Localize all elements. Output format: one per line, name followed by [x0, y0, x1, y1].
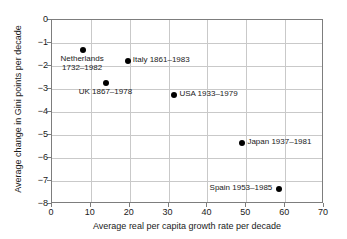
- y-tick-label: −5: [38, 129, 48, 139]
- scatter-chart-figure: 010203040506070 0−1−2−3−4−5−6−7−8 Nether…: [0, 0, 347, 239]
- gridline-vertical: [246, 20, 247, 202]
- x-tick-label: 60: [279, 207, 289, 217]
- data-point-marker: [171, 92, 177, 98]
- gridline-vertical: [169, 20, 170, 202]
- gridline-vertical: [130, 20, 131, 202]
- x-tick-label: 50: [240, 207, 250, 217]
- x-tick-label: 0: [48, 207, 53, 217]
- gridline-vertical: [285, 20, 286, 202]
- y-tick-label: −2: [38, 60, 48, 70]
- x-tick-label: 70: [318, 207, 328, 217]
- data-point-label: USA 1933–1979: [179, 89, 237, 99]
- data-point-label: Italy 1861–1983: [133, 55, 190, 65]
- x-tick-label: 20: [124, 207, 134, 217]
- gridline-horizontal: [52, 181, 322, 182]
- data-point-label: Spain 1953–1985: [210, 183, 273, 193]
- gridline-vertical: [91, 20, 92, 202]
- y-tick-label: −3: [38, 83, 48, 93]
- data-point-label: Japan 1937–1981: [247, 137, 311, 147]
- y-tick-label: −4: [38, 106, 48, 116]
- x-axis-title: Average real per capita growth rate per …: [51, 221, 323, 231]
- gridline-horizontal: [52, 135, 322, 136]
- gridline-vertical: [207, 20, 208, 202]
- gridline-horizontal: [52, 158, 322, 159]
- data-point-label: UK 1867–1978: [79, 87, 132, 97]
- y-tick-label: −7: [38, 175, 48, 185]
- data-point-marker: [239, 140, 245, 146]
- gridline-horizontal: [52, 43, 322, 44]
- x-tick-label: 30: [163, 207, 173, 217]
- gridline-horizontal: [52, 112, 322, 113]
- data-point-label: Netherlands1732–1982: [61, 54, 104, 73]
- y-tick-label: −8: [38, 198, 48, 208]
- y-tick-label: 0: [43, 14, 48, 24]
- y-tick-label: −6: [38, 152, 48, 162]
- x-tick-label: 10: [85, 207, 95, 217]
- plot-area: [51, 19, 323, 203]
- data-point-label-line: Netherlands: [61, 54, 104, 64]
- data-point-marker: [80, 47, 86, 53]
- data-point-label-line: 1732–1982: [61, 63, 104, 73]
- x-tick-label: 40: [201, 207, 211, 217]
- data-point-marker: [276, 186, 282, 192]
- y-axis-title: Average change in Gini points per decade: [13, 17, 23, 201]
- data-point-marker: [103, 80, 109, 86]
- y-tick-label: −1: [38, 37, 48, 47]
